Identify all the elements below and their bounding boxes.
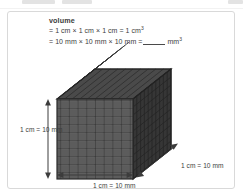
volume-equation-mm-exponent: 3 bbox=[179, 35, 182, 41]
height-arrow bbox=[45, 99, 51, 179]
width-dimension-label: 1 cm = 10 mm bbox=[93, 182, 136, 189]
volume-equation-mm-unit: mm bbox=[167, 38, 179, 45]
chrome-chip-left bbox=[22, 0, 55, 4]
cube-top-face bbox=[57, 42, 171, 99]
volume-equation-cm-exponent: 3 bbox=[141, 25, 144, 31]
depth-dimension-label: 1 cm = 10 mm bbox=[181, 162, 224, 169]
volume-equation-cm: = 1 cm × 1 cm × 1 cm = 1 cm3 bbox=[49, 26, 235, 37]
worksheet-panel: volume = 1 cm × 1 cm × 1 cm = 1 cm3 = 10… bbox=[7, 11, 235, 189]
chrome-chip-right bbox=[228, 0, 243, 4]
chrome-divider bbox=[0, 8, 243, 9]
volume-equation-mm-text: = 10 mm × 10 mm × 10 mm = bbox=[49, 38, 142, 45]
cube-side-face bbox=[133, 69, 171, 179]
volume-text-block: volume = 1 cm × 1 cm × 1 cm = 1 cm3 = 10… bbox=[49, 16, 235, 47]
cube-front-face bbox=[57, 99, 133, 179]
answer-blank[interactable] bbox=[143, 37, 165, 45]
volume-equation-mm: = 10 mm × 10 mm × 10 mm =mm3 bbox=[49, 37, 235, 48]
top-chrome-fragments bbox=[0, 0, 243, 11]
dimension-arrows bbox=[45, 99, 178, 179]
chrome-chip-middle bbox=[62, 0, 92, 4]
depth-arrow bbox=[136, 144, 178, 178]
height-dimension-label: 1 cm = 10 mm bbox=[20, 126, 63, 133]
width-arrow bbox=[57, 172, 133, 178]
volume-equation-cm-text: = 1 cm × 1 cm × 1 cm = 1 cm bbox=[49, 27, 141, 34]
